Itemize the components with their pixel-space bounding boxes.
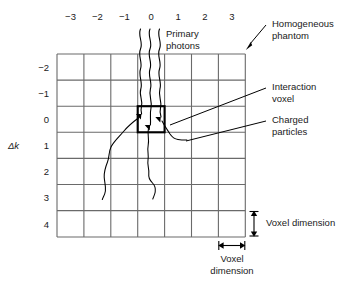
interaction-voxel-label: Interaction voxel [272,81,316,104]
voxel-grid [57,54,245,237]
voxel-dimension-horizontal-arrow [218,241,245,250]
leader-line-charged-particles [186,121,266,141]
x-axis-tick-label: 0 [141,11,161,22]
voxel-phantom-diagram: −3 −2 −1 0 1 2 3 −2 −1 0 1 2 3 4 Δk Prim… [0,0,361,285]
x-axis-tick-label: −2 [87,11,107,22]
primary-photon-track [149,29,151,125]
charged-particles-label: Charged particles [272,114,308,137]
primary-photon-track [140,29,142,114]
y-axis-tick-label: −2 [33,62,49,73]
x-axis-tick-label: −3 [61,11,81,22]
leader-line-homogeneous-phantom [250,25,266,44]
y-axis-tick-label: 4 [33,219,49,230]
charged-particle-track [148,129,156,200]
voxel-dimension-vertical-arrow [250,211,259,237]
y-axis-tick-label: 0 [33,114,49,125]
homogeneous-phantom-label-line1: Homogeneous [272,18,334,30]
homogeneous-phantom-label: Homogeneous phantom [272,18,334,41]
voxel-dimension-horizontal-label: Voxel dimension [196,253,268,276]
interaction-voxel-label-line1: Interaction [272,81,316,93]
x-axis-tick-label: −1 [114,11,134,22]
charged-particles-label-line2: particles [272,126,308,138]
homogeneous-phantom-label-line2: phantom [272,30,334,42]
primary-photons-label-line1: Primary [166,28,200,40]
y-axis-tick-label: 3 [33,192,49,203]
primary-photons-label: Primary photons [166,28,200,51]
voxel-dimension-horizontal-label-line1: Voxel [196,253,268,265]
primary-photon-track [159,29,161,117]
primary-photons-label-line2: photons [166,40,200,52]
y-axis-title: Δk [8,140,19,151]
homogeneous-phantom-arrowhead [246,42,252,50]
voxel-dimension-horizontal-label-line2: dimension [196,265,268,277]
primary-photon-tracks [140,29,161,125]
y-axis-tick-label: 1 [33,140,49,151]
charged-particles-label-line1: Charged [272,114,308,126]
x-axis-tick-label: 1 [168,11,188,22]
voxel-dimension-vertical-label: Voxel dimension [266,217,335,229]
interaction-voxel-label-line2: voxel [272,93,316,105]
y-axis-tick-label: 2 [33,166,49,177]
charged-particle-track [162,121,187,140]
x-axis-tick-label: 2 [195,11,215,22]
x-axis-tick-label: 3 [222,11,242,22]
y-axis-tick-label: −1 [33,88,49,99]
